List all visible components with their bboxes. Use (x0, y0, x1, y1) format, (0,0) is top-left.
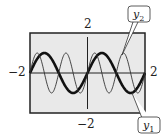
y-max-tick-label: 2 (84, 17, 92, 31)
chart: −2 2 2 −2 y2 y1 (0, 0, 167, 137)
x-max-tick-label: 2 (150, 65, 158, 79)
y-min-tick-label: −2 (77, 117, 95, 131)
x-min-tick-label: −2 (8, 65, 26, 79)
